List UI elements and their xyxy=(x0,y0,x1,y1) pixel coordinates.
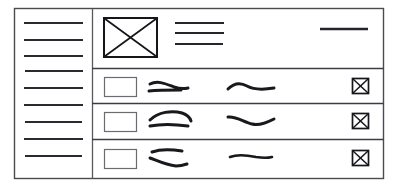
list-row[interactable] xyxy=(105,112,369,132)
list-row[interactable] xyxy=(105,78,369,97)
row-primary-scribble xyxy=(150,112,191,121)
row-primary-scribble xyxy=(152,150,182,152)
row-secondary-scribble xyxy=(228,84,274,90)
row-action-icon[interactable] xyxy=(353,151,369,166)
list-row[interactable] xyxy=(105,150,369,169)
row-thumbnail[interactable] xyxy=(105,150,137,169)
row-thumbnail[interactable] xyxy=(105,78,137,97)
row-action-icon[interactable] xyxy=(353,79,369,94)
row-secondary-scribble xyxy=(230,155,272,158)
row-primary-scribble xyxy=(150,82,188,88)
wireframe-svg xyxy=(0,0,398,187)
row-secondary-scribble xyxy=(228,117,274,125)
row-thumbnail[interactable] xyxy=(105,113,137,132)
row-primary-scribble xyxy=(150,125,188,127)
navigation-rail xyxy=(24,23,83,156)
header-text-lines xyxy=(175,23,224,44)
row-primary-scribble xyxy=(150,158,187,166)
row-primary-scribble xyxy=(149,90,181,91)
image-placeholder xyxy=(104,18,157,57)
wireframe-canvas xyxy=(0,0,398,187)
row-action-icon[interactable] xyxy=(353,114,369,129)
content-header xyxy=(104,18,368,57)
